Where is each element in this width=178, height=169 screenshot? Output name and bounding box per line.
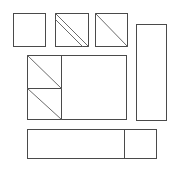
- shape-square-plain: [14, 14, 46, 47]
- line-drawing-figure: [0, 0, 178, 169]
- shape-tall-rectangle: [137, 25, 167, 121]
- shape-central-block: [28, 56, 127, 120]
- shape-bottom-block: [28, 130, 157, 159]
- drawing-canvas: [0, 0, 178, 169]
